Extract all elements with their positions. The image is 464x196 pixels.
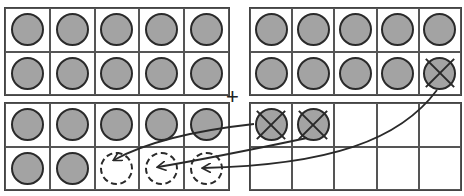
regroup-arrows [0, 0, 464, 196]
arrow-1 [114, 124, 254, 160]
arrow-3 [203, 90, 437, 168]
